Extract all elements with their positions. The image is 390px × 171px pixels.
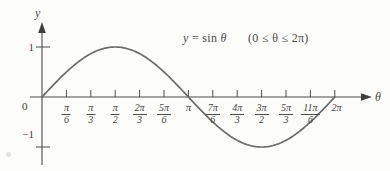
x-tick-label-2pi-over-3: 2π 3 — [133, 103, 147, 125]
fraction-numerator: 5π — [279, 103, 293, 115]
fraction-denominator: 6 — [206, 115, 220, 126]
x-tick-label-pi: π — [184, 103, 193, 114]
fraction-denominator: 6 — [157, 115, 171, 126]
x-tick-label-5pi-over-3: 5π 3 — [279, 103, 293, 125]
tick-value: 2π — [329, 103, 343, 114]
equation-caption: y = sin θ (0 ≤ θ ≤ 2π) — [183, 31, 309, 46]
x-axis-label: θ — [375, 91, 381, 103]
x-tick-label-pi-over-3: π 3 — [86, 103, 95, 125]
fraction-numerator: 4π — [230, 103, 244, 115]
fraction-denominator: 2 — [255, 115, 269, 126]
x-tick-label-11pi-over-6: 11π 6 — [301, 103, 319, 125]
sine-curve-figure: y θ 1 −1 0 π 6 π 3 π 2 2π 3 5π 6 π 7π 6 … — [0, 0, 390, 171]
fraction-numerator: π — [62, 103, 71, 115]
fraction-numerator: 7π — [206, 103, 220, 115]
y-tick-label-minus-1: −1 — [8, 128, 34, 140]
equation-domain: (0 ≤ θ ≤ 2π) — [248, 31, 309, 45]
fraction-denominator: 6 — [301, 115, 319, 126]
fraction-numerator: 2π — [133, 103, 147, 115]
x-tick-label-7pi-over-6: 7π 6 — [206, 103, 220, 125]
x-tick-label-pi-over-6: π 6 — [62, 103, 71, 125]
tick-value: π — [184, 103, 193, 114]
fraction-numerator: 11π — [301, 103, 319, 115]
x-tick-label-4pi-over-3: 4π 3 — [230, 103, 244, 125]
x-tick-label-pi-over-2: π 2 — [111, 103, 120, 125]
fraction-numerator: π — [111, 103, 120, 115]
equation-function: sin — [202, 31, 217, 45]
fraction-numerator: π — [86, 103, 95, 115]
fraction-denominator: 3 — [279, 115, 293, 126]
fraction-denominator: 3 — [133, 115, 147, 126]
fraction-denominator: 3 — [86, 115, 95, 126]
fraction-numerator: 5π — [157, 103, 171, 115]
fraction-denominator: 3 — [230, 115, 244, 126]
equation-lhs: y — [183, 31, 189, 45]
scan-artifact-speck — [6, 152, 11, 157]
x-axis-ticks — [66, 90, 334, 97]
x-axis-arrowhead — [361, 93, 372, 101]
x-tick-label-3pi-over-2: 3π 2 — [255, 103, 269, 125]
fraction-numerator: 3π — [255, 103, 269, 115]
y-axis-label: y — [35, 7, 40, 19]
origin-label: 0 — [22, 100, 28, 112]
fraction-denominator: 2 — [111, 115, 120, 126]
plot-canvas — [0, 0, 390, 171]
y-tick-label-1: 1 — [8, 41, 34, 53]
x-tick-label-5pi-over-6: 5π 6 — [157, 103, 171, 125]
y-axis-arrowhead — [38, 22, 46, 33]
fraction-denominator: 6 — [62, 115, 71, 126]
equation-variable: θ — [221, 31, 227, 45]
equation-equals: = — [192, 31, 199, 45]
x-tick-label-2pi: 2π — [329, 103, 343, 114]
